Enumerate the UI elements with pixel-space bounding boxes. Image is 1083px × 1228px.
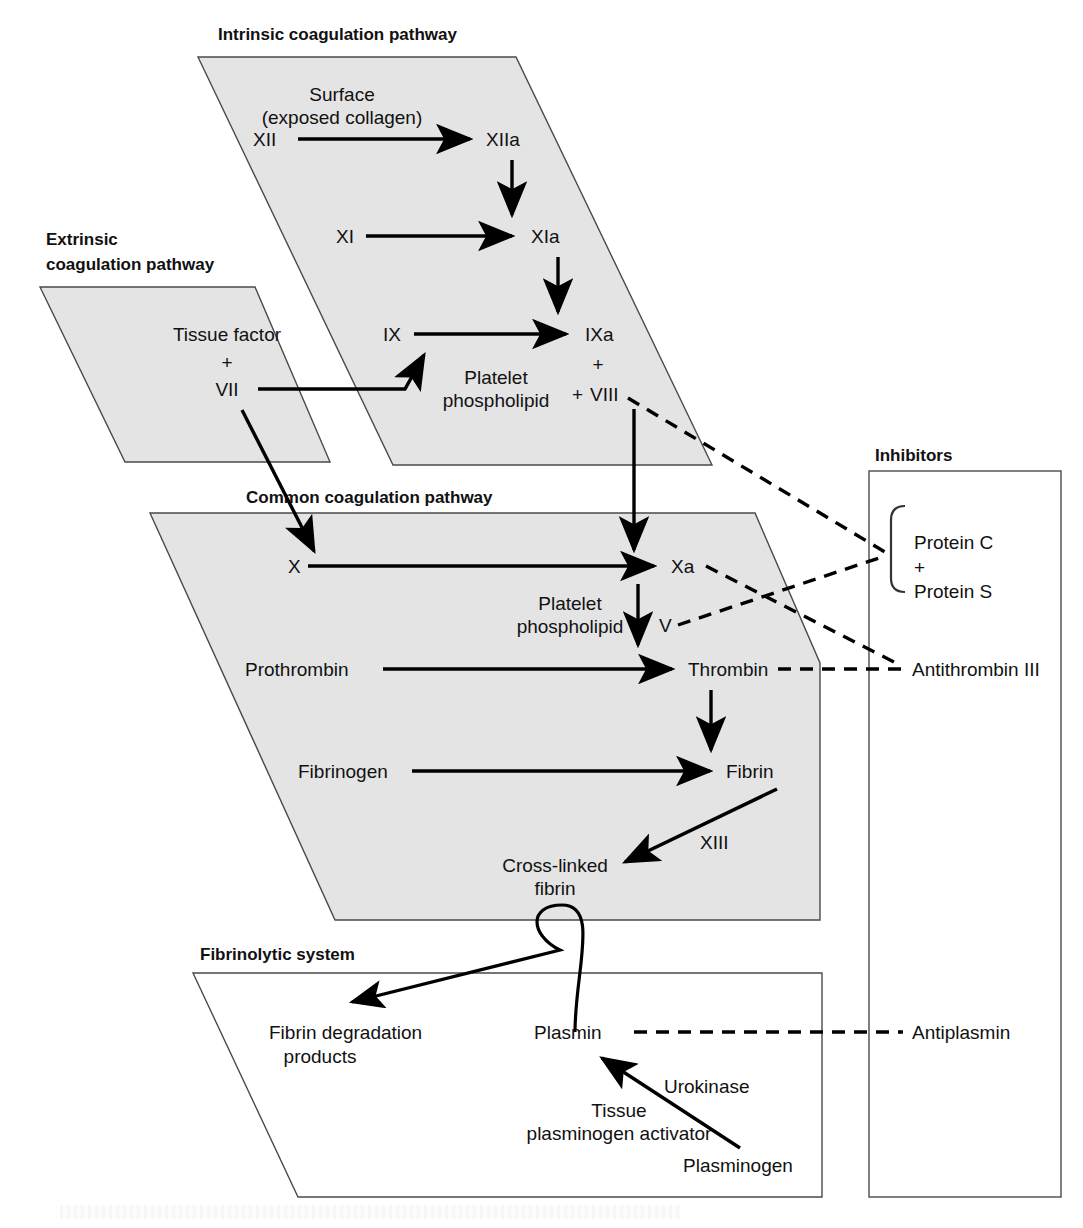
factor-xa-label: Xa	[671, 556, 695, 577]
figure-canvas: Intrinsic coagulation pathway Extrinsic …	[0, 0, 1083, 1228]
factor-vii-label: VII	[215, 379, 238, 400]
platelet-phospholipid-intrinsic-line2: phospholipid	[443, 390, 550, 411]
factor-x-label: X	[288, 556, 301, 577]
crosslinked-fibrin-line2: fibrin	[534, 878, 575, 899]
extrinsic-plus-sign: +	[221, 352, 232, 373]
extrinsic-pathway-title-line1: Extrinsic	[46, 230, 118, 249]
viii-plus-sign: +	[572, 384, 583, 405]
page-bleed-artifact	[60, 1205, 680, 1219]
prothrombin-label: Prothrombin	[245, 659, 349, 680]
coagulation-cascade-diagram: Intrinsic coagulation pathway Extrinsic …	[0, 0, 1083, 1228]
factor-ix-label: IX	[383, 324, 401, 345]
tissue-factor-label: Tissue factor	[173, 324, 282, 345]
plasminogen-label: Plasminogen	[683, 1155, 793, 1176]
factor-xii-label: XII	[253, 129, 276, 150]
surface-label-line1: Surface	[309, 84, 374, 105]
antithrombin-iii-label: Antithrombin III	[912, 659, 1040, 680]
fdp-label-line1: Fibrin degradation	[269, 1022, 422, 1043]
protein-s-label: Protein S	[914, 581, 992, 602]
fibrinogen-label: Fibrinogen	[298, 761, 388, 782]
crosslinked-fibrin-line1: Cross-linked	[502, 855, 608, 876]
platelet-phospholipid-common-line1: Platelet	[538, 593, 602, 614]
factor-xia-label: XIa	[531, 226, 560, 247]
urokinase-label: Urokinase	[664, 1076, 750, 1097]
intrinsic-pathway-title: Intrinsic coagulation pathway	[218, 25, 458, 44]
common-pathway-panel	[150, 513, 820, 920]
surface-label-line2: (exposed collagen)	[262, 107, 423, 128]
tpa-label-line1: Tissue	[591, 1100, 646, 1121]
antiplasmin-label: Antiplasmin	[912, 1022, 1010, 1043]
fdp-label-line2: products	[284, 1046, 357, 1067]
factor-xiii-label: XIII	[700, 832, 729, 853]
inhibitors-title: Inhibitors	[875, 446, 952, 465]
extrinsic-pathway-title-line2: coagulation pathway	[46, 255, 215, 274]
thrombin-label: Thrombin	[688, 659, 768, 680]
factor-viii-label: VIII	[590, 384, 619, 405]
inhibitors-plus-sign: +	[914, 557, 925, 578]
factor-v-label: V	[659, 615, 672, 636]
fibrinolytic-system-title: Fibrinolytic system	[200, 945, 355, 964]
inhibitors-panel	[869, 471, 1061, 1197]
factor-ixa-label: IXa	[585, 324, 614, 345]
platelet-phospholipid-intrinsic-line1: Platelet	[464, 367, 528, 388]
factor-xi-label: XI	[336, 226, 354, 247]
factor-xiia-label: XIIa	[486, 129, 520, 150]
protein-c-label: Protein C	[914, 532, 993, 553]
extrinsic-pathway-panel	[40, 287, 330, 462]
fibrin-label: Fibrin	[726, 761, 774, 782]
tpa-label-line2: plasminogen activator	[527, 1123, 712, 1144]
platelet-phospholipid-common-line2: phospholipid	[517, 616, 624, 637]
ixa-plus-sign: +	[592, 354, 603, 375]
plasmin-label: Plasmin	[534, 1022, 602, 1043]
